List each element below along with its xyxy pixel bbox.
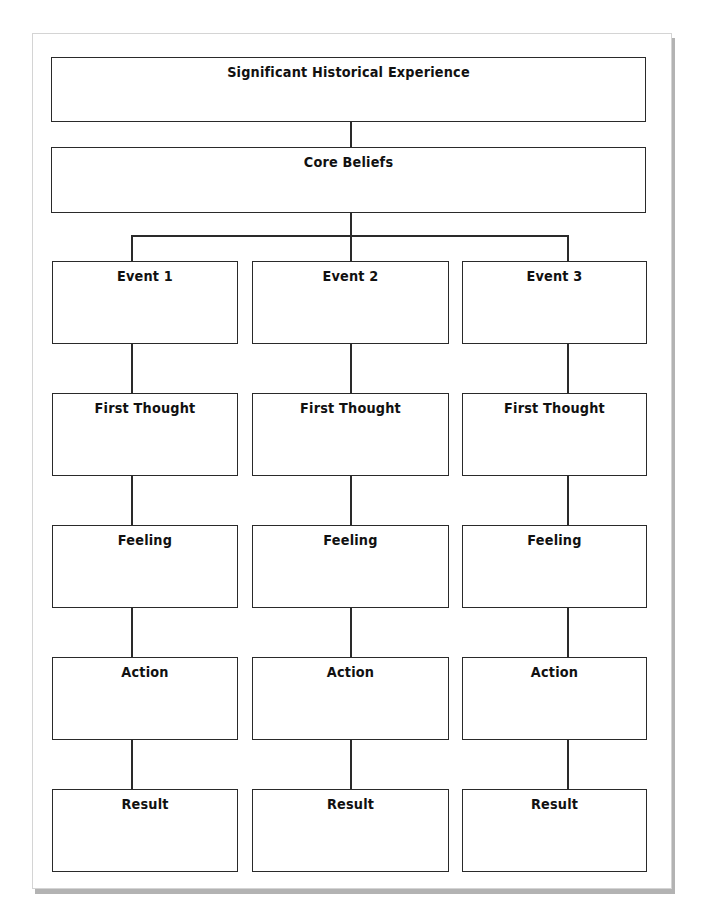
event-3-box-column-3[interactable]: Event 3 xyxy=(462,261,647,344)
result-field[interactable] xyxy=(467,818,642,867)
connector-action-to-result-column-1 xyxy=(131,740,133,789)
event-3-label: Event 3 xyxy=(470,268,638,284)
connector-feeling-to-action-column-3 xyxy=(567,608,569,657)
feeling-box-column-3[interactable]: Feeling xyxy=(462,525,647,608)
feeling-label: Feeling xyxy=(261,532,440,548)
result-label: Result xyxy=(261,796,440,812)
action-label: Action xyxy=(60,664,229,680)
event-2-box-column-2[interactable]: Event 2 xyxy=(252,261,449,344)
first-thought-box-column-2[interactable]: First Thought xyxy=(252,393,449,476)
core-beliefs-label: Core Beliefs xyxy=(76,154,622,170)
feeling-box-column-1[interactable]: Feeling xyxy=(52,525,238,608)
action-box-column-1[interactable]: Action xyxy=(52,657,238,740)
feeling-label: Feeling xyxy=(60,532,229,548)
feeling-box-column-2[interactable]: Feeling xyxy=(252,525,449,608)
connector-branch-to-event-3 xyxy=(567,235,569,262)
significant-historical-experience-box[interactable]: Significant Historical Experience xyxy=(51,57,646,122)
first-thought-field[interactable] xyxy=(257,422,444,471)
feeling-field[interactable] xyxy=(57,554,233,603)
feeling-label: Feeling xyxy=(470,532,638,548)
core-beliefs-box[interactable]: Core Beliefs xyxy=(51,147,646,213)
first-thought-field[interactable] xyxy=(467,422,642,471)
event-2-label: Event 2 xyxy=(261,268,440,284)
core-beliefs-field[interactable] xyxy=(56,176,641,208)
first-thought-label: First Thought xyxy=(261,400,440,416)
connector-branch-to-event-1 xyxy=(131,235,133,262)
connector-event-1-to-first-thought-column-1 xyxy=(131,344,133,393)
feeling-field[interactable] xyxy=(257,554,444,603)
first-thought-label: First Thought xyxy=(60,400,229,416)
connector-history-to-core xyxy=(350,122,352,148)
result-label: Result xyxy=(60,796,229,812)
connector-feeling-to-action-column-1 xyxy=(131,608,133,657)
result-box-column-1[interactable]: Result xyxy=(52,789,238,872)
action-label: Action xyxy=(470,664,638,680)
result-field[interactable] xyxy=(257,818,444,867)
connector-action-to-result-column-2 xyxy=(350,740,352,789)
significant-historical-experience-label: Significant Historical Experience xyxy=(76,64,622,80)
first-thought-box-column-3[interactable]: First Thought xyxy=(462,393,647,476)
first-thought-label: First Thought xyxy=(470,400,638,416)
event-1-label: Event 1 xyxy=(60,268,229,284)
connector-first-thought-to-feeling-column-3 xyxy=(567,476,569,525)
result-box-column-2[interactable]: Result xyxy=(252,789,449,872)
event-1-field[interactable] xyxy=(57,290,233,339)
action-label: Action xyxy=(261,664,440,680)
connector-event-2-to-first-thought-column-2 xyxy=(350,344,352,393)
connector-first-thought-to-feeling-column-2 xyxy=(350,476,352,525)
connector-action-to-result-column-3 xyxy=(567,740,569,789)
connector-first-thought-to-feeling-column-1 xyxy=(131,476,133,525)
connector-event-3-to-first-thought-column-3 xyxy=(567,344,569,393)
event-1-box-column-1[interactable]: Event 1 xyxy=(52,261,238,344)
action-field[interactable] xyxy=(467,686,642,735)
action-field[interactable] xyxy=(257,686,444,735)
result-field[interactable] xyxy=(57,818,233,867)
action-field[interactable] xyxy=(57,686,233,735)
first-thought-box-column-1[interactable]: First Thought xyxy=(52,393,238,476)
connector-core-to-branch xyxy=(350,213,352,262)
result-label: Result xyxy=(470,796,638,812)
event-3-field[interactable] xyxy=(467,290,642,339)
feeling-field[interactable] xyxy=(467,554,642,603)
significant-historical-experience-field[interactable] xyxy=(56,86,641,117)
event-2-field[interactable] xyxy=(257,290,444,339)
connector-feeling-to-action-column-2 xyxy=(350,608,352,657)
action-box-column-2[interactable]: Action xyxy=(252,657,449,740)
first-thought-field[interactable] xyxy=(57,422,233,471)
action-box-column-3[interactable]: Action xyxy=(462,657,647,740)
connector-branch-horizontal xyxy=(131,235,568,237)
result-box-column-3[interactable]: Result xyxy=(462,789,647,872)
